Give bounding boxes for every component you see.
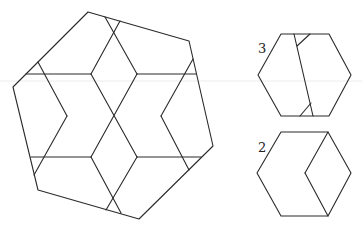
piece-3-edge <box>297 34 310 46</box>
main-shape-edge <box>106 157 137 210</box>
diagram-canvas <box>0 0 362 230</box>
main-shape-edge <box>34 116 67 175</box>
piece-label-2: 2 <box>258 141 266 154</box>
main-shape-edge <box>91 157 121 213</box>
main-shape-edge <box>105 17 137 74</box>
main-shape-outline <box>13 12 213 219</box>
main-shape-edge <box>161 116 189 170</box>
main-shape-edge <box>161 59 193 116</box>
main-shape-edge <box>38 62 67 116</box>
piece-3-outline <box>258 34 351 116</box>
piece-2-hexagon <box>257 132 351 216</box>
piece-2-outline <box>257 132 351 216</box>
main-shape-edge <box>91 21 120 74</box>
main-tiled-polygon <box>13 12 213 219</box>
piece-2-edge <box>305 173 328 216</box>
piece-label-3: 3 <box>258 42 266 55</box>
piece-3-hexagon <box>258 34 351 116</box>
piece-3-edge <box>300 103 311 116</box>
piece-2-edge <box>305 132 328 173</box>
